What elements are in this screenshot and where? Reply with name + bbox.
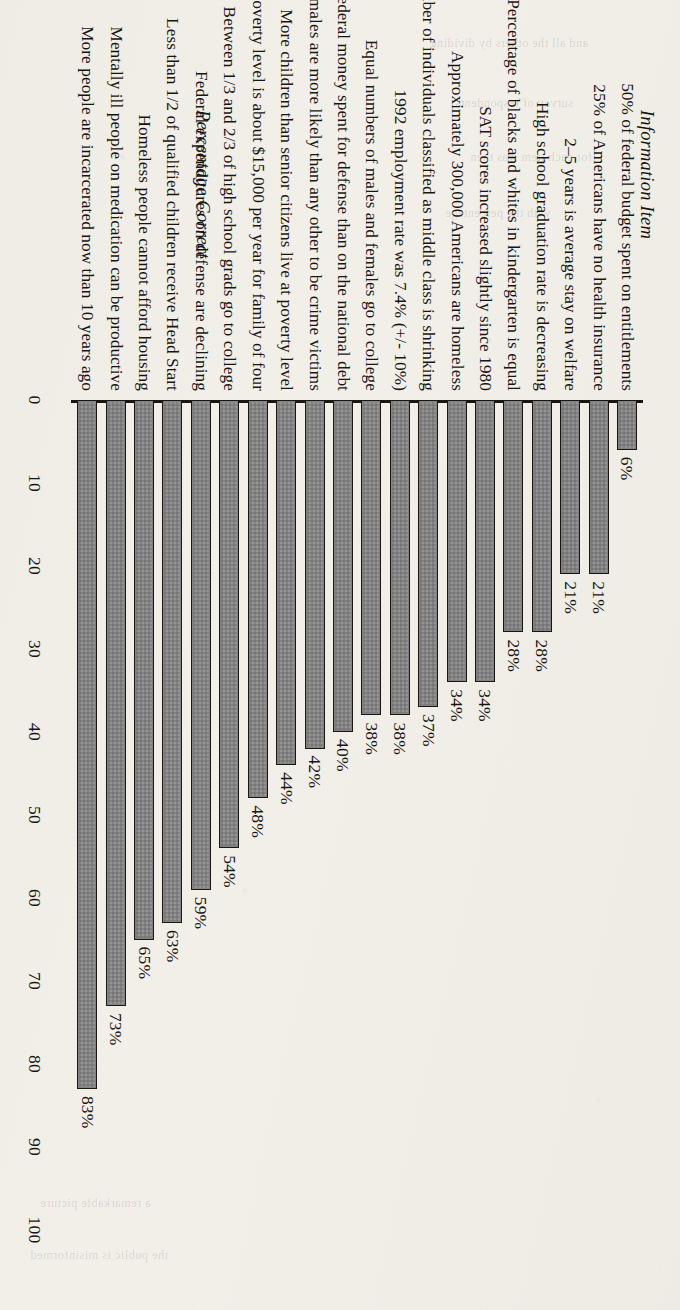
- bar: [305, 400, 325, 749]
- bar-value-label: 44%: [276, 772, 297, 805]
- figure-rotation-wrapper: Information Item Percentage Correct 50% …: [0, 0, 680, 1310]
- category-label: 2–5 years is average stay on welfare: [560, 138, 580, 391]
- bar-row: 1992 employment rate was 7.4% (+/- 10%)3…: [390, 400, 410, 1230]
- bar-row: 25% of Americans have no health insuranc…: [589, 400, 609, 1230]
- bar: [447, 400, 467, 682]
- bar: [219, 400, 239, 848]
- bar-value-label: 34%: [474, 689, 495, 722]
- x-axis-tick-label: 90: [24, 1138, 45, 1156]
- bar-value-label: 73%: [105, 1013, 126, 1046]
- category-label: Homeless people cannot afford housing: [134, 115, 154, 391]
- bar-row: Percentage of blacks and whites in kinde…: [503, 400, 523, 1230]
- x-axis-tick-label: 10: [24, 474, 45, 492]
- bar-row: More people are incarcerated now than 10…: [77, 400, 97, 1230]
- bar-value-label: 38%: [361, 722, 382, 755]
- bar-value-label: 34%: [446, 689, 467, 722]
- x-axis-tick-label: 20: [24, 557, 45, 575]
- category-label: 50% of federal budget spent on entitleme…: [617, 83, 637, 391]
- plot-area: 50% of federal budget spent on entitleme…: [77, 400, 637, 1230]
- bar-value-label: 37%: [418, 714, 439, 747]
- x-axis-tick-label: 60: [24, 889, 45, 907]
- bar-chart: Information Item Percentage Correct 50% …: [15, 12, 665, 1298]
- category-label: Approximately 300,000 Americans are home…: [447, 51, 467, 391]
- bar-row: Approximately 300,000 Americans are home…: [447, 400, 467, 1230]
- bar: [191, 400, 211, 890]
- bar: [532, 400, 552, 632]
- bar-row: Poverty level is about $15,000 per year …: [248, 400, 268, 1230]
- category-label: Black males are more likely than any oth…: [305, 0, 325, 391]
- x-axis-tick-label: 0: [24, 395, 45, 404]
- bar: [248, 400, 268, 798]
- bar-row: Equal numbers of males and females go to…: [361, 400, 381, 1230]
- bar-row: SAT scores increased slightly since 1980…: [475, 400, 495, 1230]
- bar-value-label: 38%: [389, 722, 410, 755]
- bar: [333, 400, 353, 732]
- category-label: 25% of Americans have no health insuranc…: [589, 84, 609, 391]
- bar-value-label: 28%: [503, 639, 524, 672]
- y-axis-title: Information Item: [636, 110, 657, 239]
- bar-row: 2–5 years is average stay on welfare21%: [560, 400, 580, 1230]
- bar-value-label: 21%: [560, 581, 581, 614]
- bar-value-label: 65%: [134, 947, 155, 980]
- category-label: More children than senior citizens live …: [276, 9, 296, 391]
- bar-row: Number of individuals classified as midd…: [418, 400, 438, 1230]
- category-label: 1992 employment rate was 7.4% (+/- 10%): [390, 90, 410, 391]
- category-label: Mentally ill people on medication can be…: [106, 27, 126, 392]
- bar-row: More children than senior citizens live …: [276, 400, 296, 1230]
- bar: [617, 400, 637, 450]
- bar: [361, 400, 381, 715]
- bar: [134, 400, 154, 940]
- bar-value-label: 48%: [247, 805, 268, 838]
- bar: [390, 400, 410, 715]
- bar-value-label: 28%: [531, 639, 552, 672]
- bar-row: Black males are more likely than any oth…: [305, 400, 325, 1230]
- bar: [418, 400, 438, 707]
- x-axis-tick-label: 30: [24, 640, 45, 658]
- bar-row: Between 1/3 and 2/3 of high school grads…: [219, 400, 239, 1230]
- category-label: Poverty level is about $15,000 per year …: [248, 0, 268, 391]
- bar-row: Mentally ill people on medication can be…: [106, 400, 126, 1230]
- bar-row: 50% of federal budget spent on entitleme…: [617, 400, 637, 1230]
- category-label: More federal money spent for defense tha…: [333, 0, 353, 391]
- x-axis-tick-label: 40: [24, 723, 45, 741]
- bar-row: Less than 1/2 of qualified children rece…: [163, 400, 183, 1230]
- bar-value-label: 40%: [332, 739, 353, 772]
- bar: [503, 400, 523, 632]
- bar-value-label: 63%: [162, 930, 183, 963]
- x-axis-tick-label: 50: [24, 806, 45, 824]
- bar-row: Federal expenditures on defense are decl…: [191, 400, 211, 1230]
- bar-row: More federal money spent for defense tha…: [333, 400, 353, 1230]
- bar-row-list: 50% of federal budget spent on entitleme…: [77, 400, 637, 1230]
- category-label: Less than 1/2 of qualified children rece…: [163, 18, 183, 391]
- category-label: Equal numbers of males and females go to…: [361, 40, 381, 391]
- x-axis-tick-label: 70: [24, 972, 45, 990]
- bar-value-label: 54%: [219, 855, 240, 888]
- bar: [163, 400, 183, 923]
- bar: [475, 400, 495, 682]
- bar: [276, 400, 296, 765]
- x-axis-tick-list: 0102030405060708090100: [15, 400, 45, 1230]
- category-label: More people are incarcerated now than 10…: [77, 26, 97, 391]
- x-axis-tick-label: 80: [24, 1055, 45, 1073]
- x-axis-tick-label: 100: [24, 1216, 45, 1243]
- bar-row: Homeless people cannot afford housing65%: [134, 400, 154, 1230]
- bar-value-label: 42%: [304, 756, 325, 789]
- category-label: Between 1/3 and 2/3 of high school grads…: [219, 7, 239, 391]
- bar-value-label: 6%: [617, 457, 638, 481]
- category-label: Federal expenditures on defense are decl…: [191, 71, 211, 391]
- bar: [106, 400, 126, 1006]
- bar-row: High school graduation rate is decreasin…: [532, 400, 552, 1230]
- category-label: Number of individuals classified as midd…: [418, 0, 438, 391]
- bar: [77, 400, 97, 1089]
- category-label: High school graduation rate is decreasin…: [532, 102, 552, 391]
- bar: [560, 400, 580, 574]
- bar: [589, 400, 609, 574]
- bar-value-label: 21%: [588, 581, 609, 614]
- category-label: Percentage of blacks and whites in kinde…: [503, 0, 523, 391]
- category-label: SAT scores increased slightly since 1980: [475, 106, 495, 391]
- bar-value-label: 83%: [77, 1096, 98, 1129]
- bar-value-label: 59%: [190, 897, 211, 930]
